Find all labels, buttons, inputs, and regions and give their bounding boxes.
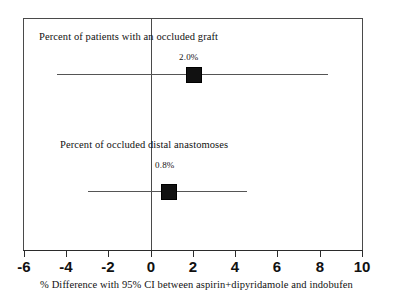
x-axis-caption: % Difference with 95% CI between aspirin… xyxy=(0,279,393,290)
x-axis-tick-label: 4 xyxy=(231,258,239,275)
zero-reference-line xyxy=(151,18,152,250)
x-axis-tick xyxy=(320,250,321,257)
x-axis-tick xyxy=(108,250,109,257)
row-label-occluded-graft: Percent of patients with an occluded gra… xyxy=(39,31,218,42)
row-value-label-occluded-graft: 2.0% xyxy=(179,52,199,62)
x-axis-tick-label: -4 xyxy=(59,258,72,275)
point-estimate-marker xyxy=(186,67,202,83)
x-axis-tick xyxy=(66,250,67,257)
forest-plot-figure: Percent of patients with an occluded gra… xyxy=(0,0,393,298)
x-axis-tick xyxy=(235,250,236,257)
x-axis-tick-label: -2 xyxy=(101,258,114,275)
x-axis-tick xyxy=(151,250,152,257)
point-estimate-marker xyxy=(161,184,177,200)
x-axis-tick-label: 10 xyxy=(354,258,371,275)
x-axis-tick xyxy=(362,250,363,257)
x-axis-tick xyxy=(24,250,25,257)
row-label-distal-anastomoses: Percent of occluded distal anastomoses xyxy=(60,139,228,150)
x-axis-tick-label: -6 xyxy=(17,258,30,275)
x-axis-tick-label: 8 xyxy=(316,258,324,275)
x-axis-tick xyxy=(193,250,194,257)
x-axis-tick-label: 2 xyxy=(189,258,197,275)
x-axis-tick-label: 6 xyxy=(273,258,281,275)
row-value-label-distal-anastomoses: 0.8% xyxy=(155,160,175,170)
x-axis-tick-label: 0 xyxy=(147,258,155,275)
x-axis-tick xyxy=(277,250,278,257)
